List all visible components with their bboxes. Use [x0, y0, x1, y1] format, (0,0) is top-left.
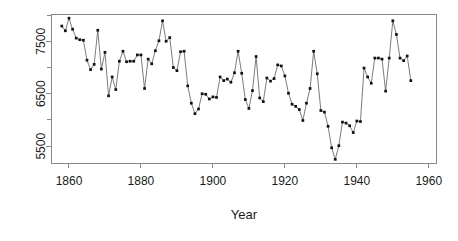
data-point — [294, 105, 297, 108]
data-point — [75, 37, 78, 40]
data-point — [215, 96, 218, 99]
data-point — [323, 111, 326, 114]
data-point — [269, 80, 272, 83]
data-point — [125, 60, 128, 63]
data-point — [255, 55, 258, 58]
y-tick-label: 6500 — [34, 80, 48, 107]
data-point — [158, 39, 161, 42]
data-point — [284, 75, 287, 78]
data-point — [348, 124, 351, 127]
data-point — [237, 50, 240, 53]
data-point — [388, 57, 391, 60]
data-point — [370, 82, 373, 85]
x-tick-label: 1900 — [200, 174, 227, 188]
data-point — [240, 72, 243, 75]
data-point — [266, 77, 269, 80]
data-point — [226, 78, 229, 81]
data-point — [251, 89, 254, 92]
y-tick-label: 7500 — [34, 28, 48, 55]
data-point — [327, 125, 330, 128]
data-point — [377, 57, 380, 60]
data-point — [194, 112, 197, 115]
data-point — [64, 29, 67, 32]
data-point — [291, 103, 294, 106]
data-point — [298, 108, 301, 111]
data-point — [262, 100, 265, 103]
x-tick-label: 1860 — [56, 174, 83, 188]
data-point — [154, 49, 157, 52]
data-point — [179, 50, 182, 53]
data-point — [60, 25, 63, 28]
y-axis-tick-labels: 550065007500 — [34, 28, 48, 160]
data-point — [355, 120, 358, 123]
data-point — [122, 50, 125, 53]
data-point — [316, 72, 319, 75]
data-point — [168, 36, 171, 39]
data-point — [287, 92, 290, 95]
data-point — [406, 55, 409, 58]
x-tick-label: 1940 — [343, 174, 370, 188]
data-point — [391, 19, 394, 22]
data-point — [165, 40, 168, 43]
data-point — [107, 95, 110, 98]
data-point — [338, 144, 341, 147]
data-point — [212, 96, 215, 99]
data-point — [359, 120, 362, 123]
data-point — [230, 81, 233, 84]
data-point — [381, 58, 384, 61]
data-point — [409, 79, 412, 82]
data-point — [172, 66, 175, 69]
data-point — [143, 87, 146, 90]
y-tick-label: 5500 — [34, 133, 48, 160]
data-point — [82, 39, 85, 42]
data-point — [114, 88, 117, 91]
data-point — [147, 58, 150, 61]
data-point — [129, 60, 132, 63]
data-point — [258, 97, 261, 100]
line-chart: 186018801900192019401960 550065007500 Ye… — [0, 0, 458, 241]
data-point — [399, 57, 402, 60]
data-point — [334, 158, 337, 161]
data-point — [309, 87, 312, 90]
data-point — [402, 59, 405, 62]
data-point — [89, 68, 92, 71]
data-point — [302, 119, 305, 122]
data-point — [78, 38, 81, 41]
data-point — [384, 90, 387, 93]
x-tick-label: 1880 — [128, 174, 155, 188]
data-point — [208, 98, 211, 101]
data-point — [140, 54, 143, 57]
data-point — [183, 50, 186, 53]
data-point — [150, 62, 153, 65]
data-point — [93, 63, 96, 66]
data-point — [96, 29, 99, 32]
data-point — [197, 108, 200, 111]
data-point — [366, 76, 369, 79]
data-point — [312, 50, 315, 53]
data-point — [345, 122, 348, 125]
data-point — [320, 109, 323, 112]
chart-background — [0, 0, 458, 241]
x-tick-label: 1960 — [415, 174, 442, 188]
data-point — [71, 28, 74, 31]
data-point — [176, 69, 179, 72]
data-point — [395, 33, 398, 36]
data-point — [68, 17, 71, 20]
data-point — [100, 68, 103, 71]
data-point — [204, 93, 207, 96]
data-point — [248, 107, 251, 110]
data-point — [118, 60, 121, 63]
data-point — [352, 131, 355, 134]
data-point — [276, 64, 279, 67]
data-point — [201, 92, 204, 95]
data-point — [132, 60, 135, 63]
data-point — [244, 98, 247, 101]
data-point — [190, 102, 193, 105]
data-point — [104, 51, 107, 54]
data-point — [86, 59, 89, 62]
data-point — [273, 77, 276, 80]
data-point — [186, 85, 189, 88]
data-point — [136, 54, 139, 57]
x-axis-title: Year — [231, 207, 258, 222]
data-point — [280, 65, 283, 68]
